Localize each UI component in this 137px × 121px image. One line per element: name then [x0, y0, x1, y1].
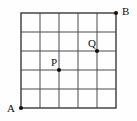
point-marker-b — [114, 11, 118, 15]
point-label-p: P — [51, 57, 57, 68]
point-label-b: B — [122, 6, 129, 17]
grid-canvas — [0, 0, 137, 121]
point-label-q: Q — [88, 38, 96, 49]
lattice-grid-figure: ABPQ — [0, 0, 137, 121]
point-marker-a — [19, 106, 23, 110]
point-label-a: A — [7, 103, 15, 114]
point-dots — [19, 11, 118, 110]
grid-lines — [21, 13, 116, 108]
grid-outer-border — [21, 13, 116, 108]
point-marker-q — [95, 49, 99, 53]
point-marker-p — [57, 68, 61, 72]
grid-border — [21, 13, 116, 108]
